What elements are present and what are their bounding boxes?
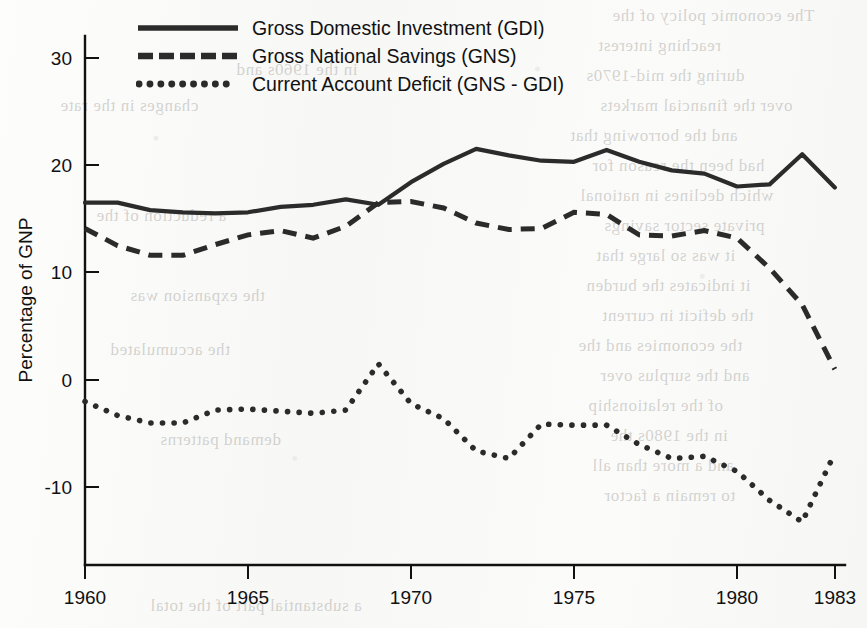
chart-figure: The economic policy of the reaching inte… (0, 0, 867, 628)
series-line-gross-national-savings (85, 202, 835, 370)
series-line-gross-domestic-investment (85, 149, 835, 214)
y-tick-label-30: 30 (51, 48, 72, 69)
legend-swatch-solid (136, 21, 240, 35)
y-tick-label-10: 10 (51, 262, 72, 283)
y-tick-label-0: 0 (61, 370, 72, 391)
legend-label-gdi: Gross Domestic Investment (GDI) (252, 17, 545, 40)
y-tick-label-neg10: -10 (45, 477, 72, 498)
x-axis-ticks (85, 565, 835, 579)
legend-label-gns: Gross National Savings (GNS) (252, 45, 516, 68)
legend-swatch-dashed (136, 49, 240, 63)
legend-item-gdi: Gross Domestic Investment (GDI) (136, 14, 566, 42)
x-tick-label-1965: 1965 (227, 587, 269, 608)
x-tick-label-1983: 1983 (814, 587, 856, 608)
legend-item-gns: Gross National Savings (GNS) (136, 42, 566, 70)
x-tick-label-1960: 1960 (64, 587, 106, 608)
chart-legend: Gross Domestic Investment (GDI) Gross Na… (136, 14, 566, 98)
x-tick-label-1975: 1975 (553, 587, 595, 608)
y-axis-ticks (85, 58, 99, 487)
legend-item-cad: Current Account Deficit (GNS - GDI) (136, 70, 566, 98)
y-tick-label-20: 20 (51, 155, 72, 176)
x-tick-label-1970: 1970 (390, 587, 432, 608)
y-axis-title: Percentage of GNP (15, 218, 36, 383)
legend-swatch-dotted (136, 77, 240, 91)
legend-label-cad: Current Account Deficit (GNS - GDI) (252, 73, 564, 96)
series-line-current-account-deficit (85, 364, 835, 522)
x-tick-label-1980: 1980 (716, 587, 758, 608)
